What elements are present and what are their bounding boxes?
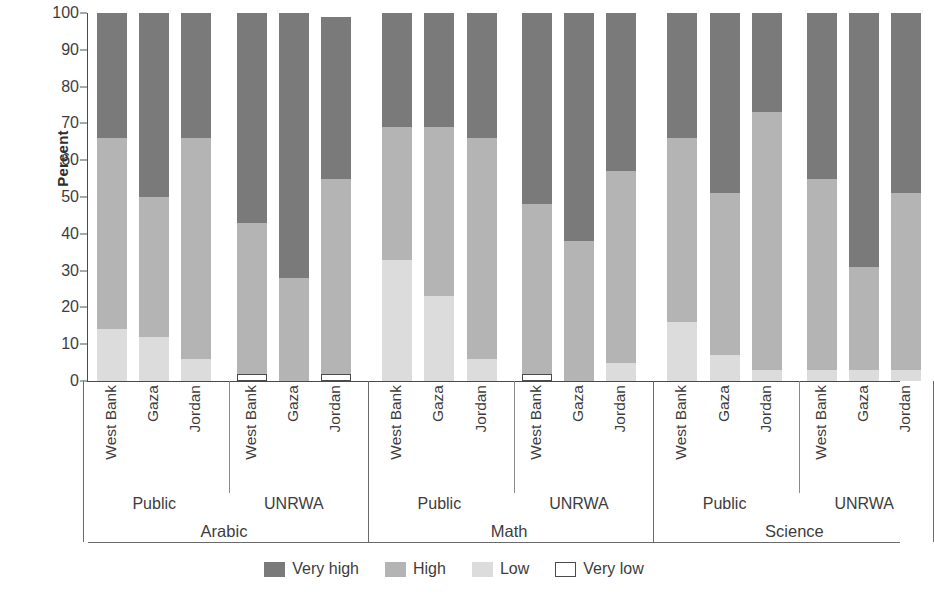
legend-item[interactable]: Low — [472, 560, 529, 578]
country-label: West Bank — [243, 385, 259, 460]
bar-segment-very-high — [891, 13, 921, 193]
legend-item[interactable]: Very high — [264, 560, 359, 578]
sector-divider — [514, 381, 515, 493]
y-tick-mark — [80, 233, 87, 234]
bar-segment-high — [667, 138, 697, 322]
bar[interactable] — [522, 13, 552, 381]
chart-legend: Very highHighLowVery low — [0, 560, 908, 578]
country-label: West Bank — [528, 385, 544, 460]
bar-segment-very-high — [564, 13, 594, 241]
sector-label: UNRWA — [509, 495, 649, 513]
bar-segment-low — [807, 370, 837, 381]
bar[interactable] — [139, 13, 169, 381]
legend-label: High — [413, 560, 446, 578]
country-label: Gaza — [285, 385, 301, 422]
bar[interactable] — [752, 13, 782, 381]
y-axis-line — [87, 13, 88, 381]
country-label: West Bank — [388, 385, 404, 460]
legend-item[interactable]: Very low — [555, 560, 643, 578]
bar-segment-high — [279, 278, 309, 381]
category-axis: West BankGazaJordanWest BankGazaJordanWe… — [88, 381, 900, 543]
bar-segment-high — [321, 179, 351, 374]
subject-label: Science — [714, 522, 874, 541]
bar-segment-very-high — [97, 13, 127, 138]
sector-label: Public — [84, 495, 224, 513]
y-tick-label: 90 — [61, 41, 79, 59]
bar-segment-low — [467, 359, 497, 381]
bar-segment-very-high — [237, 13, 267, 223]
subject-label: Math — [429, 522, 589, 541]
bar-segment-very-high — [752, 13, 782, 112]
y-tick-mark — [80, 49, 87, 50]
legend-label: Very low — [583, 560, 643, 578]
y-tick-mark — [80, 13, 87, 14]
subject-divider — [653, 381, 654, 542]
bar-segment-low — [424, 296, 454, 381]
bar-segment-low — [181, 359, 211, 381]
bar[interactable] — [279, 13, 309, 381]
bar-segment-very-high — [382, 13, 412, 127]
plot-area: 0102030405060708090100 — [88, 13, 900, 381]
bar-segment-low — [606, 363, 636, 381]
legend-swatch — [555, 562, 576, 577]
bar[interactable] — [237, 13, 267, 381]
bar-segment-high — [424, 127, 454, 296]
country-label: Gaza — [570, 385, 586, 422]
y-tick-label: 50 — [61, 188, 79, 206]
legend-swatch — [385, 562, 406, 577]
bar-segment-very-high — [667, 13, 697, 138]
bar[interactable] — [710, 13, 740, 381]
bar[interactable] — [564, 13, 594, 381]
y-tick-mark — [80, 123, 87, 124]
bar[interactable] — [97, 13, 127, 381]
bar[interactable] — [606, 13, 636, 381]
country-label: West Bank — [103, 385, 119, 460]
y-tick-label: 0 — [70, 372, 79, 390]
bar[interactable] — [807, 13, 837, 381]
country-label: Jordan — [758, 385, 774, 432]
sector-divider — [799, 381, 800, 493]
y-tick-label: 30 — [61, 262, 79, 280]
bar[interactable] — [424, 13, 454, 381]
y-tick-mark — [80, 307, 87, 308]
bar[interactable] — [181, 13, 211, 381]
sector-label: UNRWA — [794, 495, 934, 513]
bar-segment-very-high — [181, 13, 211, 138]
y-tick-mark — [80, 86, 87, 87]
bar-segment-high — [564, 241, 594, 381]
subject-label: Arabic — [144, 522, 304, 541]
bar-segment-high — [752, 112, 782, 370]
bar-segment-high — [807, 179, 837, 370]
y-tick-label: 10 — [61, 335, 79, 353]
bar-segment-high — [382, 127, 412, 259]
bar-segment-high — [522, 204, 552, 373]
bar[interactable] — [849, 13, 879, 381]
y-tick-mark — [80, 197, 87, 198]
bar-segment-very-low — [522, 374, 552, 381]
country-label: West Bank — [813, 385, 829, 460]
y-tick-mark — [80, 344, 87, 345]
bar-segment-very-high — [424, 13, 454, 127]
bar[interactable] — [467, 13, 497, 381]
legend-item[interactable]: High — [385, 560, 446, 578]
bar[interactable] — [382, 13, 412, 381]
sector-label: UNRWA — [224, 495, 364, 513]
bar-segment-high — [467, 138, 497, 359]
sector-label: Public — [655, 495, 795, 513]
bar[interactable] — [667, 13, 697, 381]
bar-segment-high — [710, 193, 740, 355]
country-label: Jordan — [327, 385, 343, 432]
bar[interactable] — [321, 13, 351, 381]
legend-swatch — [472, 562, 493, 577]
y-tick-label: 70 — [61, 114, 79, 132]
bar-segment-very-low — [321, 374, 351, 381]
bar-segment-very-high — [467, 13, 497, 138]
bar-segment-low — [97, 329, 127, 381]
bar-segment-low — [891, 370, 921, 381]
country-label: Jordan — [897, 385, 913, 432]
bar[interactable] — [891, 13, 921, 381]
country-label: West Bank — [673, 385, 689, 460]
legend-label: Very high — [292, 560, 359, 578]
bar-segment-low — [710, 355, 740, 381]
